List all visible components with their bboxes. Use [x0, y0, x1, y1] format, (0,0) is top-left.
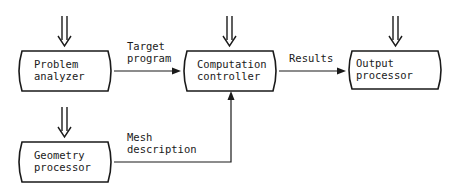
node-label-line2: processor — [356, 69, 413, 81]
arrowhead-icon — [228, 91, 235, 100]
double-down-arrow-icon — [58, 107, 71, 137]
double-down-arrow-icon — [389, 16, 402, 46]
edge-label-line1: Mesh — [127, 131, 152, 143]
node-computation-controller: Computation controller — [184, 51, 276, 91]
node-label-line2: controller — [197, 70, 260, 82]
node-label-line1: Output — [356, 57, 394, 69]
node-label-line1: Geometry — [34, 149, 85, 161]
node-geometry-processor: Geometry processor — [19, 142, 111, 182]
edge-results: Results — [279, 52, 346, 75]
arrowhead-icon — [337, 68, 346, 75]
double-down-arrow-icon — [223, 16, 236, 46]
flow-diagram: Target program Results Mesh description … — [0, 0, 457, 190]
arrowhead-icon — [172, 68, 181, 75]
node-label-line1: Computation — [197, 58, 267, 70]
edge-label-line1: Results — [289, 52, 333, 64]
double-down-arrow-icon — [58, 16, 71, 46]
node-label-line2: analyzer — [34, 70, 85, 82]
edge-label-line1: Target — [127, 40, 165, 52]
edge-label-line2: program — [127, 52, 171, 64]
edge-label-line2: description — [127, 143, 197, 155]
node-problem-analyzer: Problem analyzer — [19, 51, 111, 91]
edge-target-program: Target program — [114, 40, 181, 75]
node-label-line2: processor — [34, 161, 91, 173]
node-output-processor: Output processor — [349, 51, 441, 89]
edge-mesh-description: Mesh description — [114, 91, 235, 162]
node-label-line1: Problem — [34, 58, 78, 70]
